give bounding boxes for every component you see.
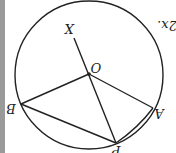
center-point-o (87, 72, 91, 76)
label-p: P (111, 143, 121, 153)
segment-bp (21, 104, 116, 143)
side-text: 2x. (157, 18, 176, 33)
chord-ap (116, 108, 153, 143)
line-x-o-p (74, 38, 116, 143)
segment-oa (89, 74, 153, 108)
label-a: A (154, 106, 164, 121)
label-o: O (90, 60, 101, 75)
label-b: B (6, 101, 17, 116)
label-x: X (64, 21, 75, 36)
circle-geometry-diagram: X O B A P 2x. (0, 0, 176, 153)
segment-ob (21, 74, 89, 104)
